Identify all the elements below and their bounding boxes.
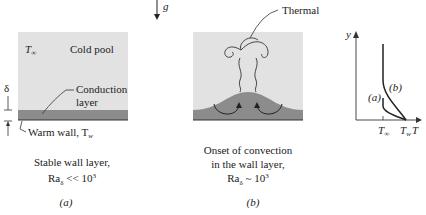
conduction-label-2: layer [76,96,98,108]
caption-a-line2: Raδ << 103 [48,172,96,187]
curve-a [383,98,406,120]
x-axis-label: T [412,124,419,136]
delta-label: δ [4,82,9,94]
gravity-arrow-icon [154,0,160,20]
warm-wall-leader [20,121,26,132]
tick-t-inf: T∞ [378,124,389,138]
conduction-label-1: Conduction [76,83,128,95]
diagram-canvas: g T∞ Cold pool δ Conduction layer Warm w… [0,0,426,215]
conduction-layer [18,110,128,120]
gravity-label: g [163,0,169,12]
cold-pool-label: Cold pool [70,43,114,55]
tick-t-w: Tw [400,124,411,138]
curve-a-label: (a) [368,91,381,104]
panel-a-tag: (a) [60,196,73,209]
caption-b-line3: Raδ ~ 103 [227,172,269,187]
y-axis-label: y [345,28,351,40]
caption-b-line1: Onset of convection [204,144,293,156]
warm-wall-label: Warm wall, Tw [28,126,93,140]
panel-b-tag: (b) [247,196,260,209]
caption-b-line2: in the wall layer, [211,158,285,170]
caption-a-line1: Stable wall layer, [34,156,110,168]
curve-b-label: (b) [389,81,402,94]
thermal-label: Thermal [282,4,319,16]
temperature-profile-plot [353,31,422,123]
